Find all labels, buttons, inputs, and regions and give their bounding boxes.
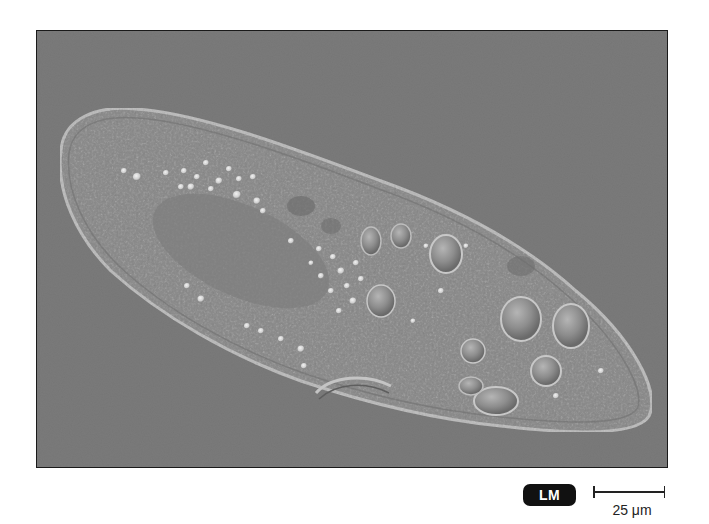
scale-bar-right-tick [664, 486, 666, 498]
scale-bar-line [593, 491, 665, 493]
micrograph-image [36, 30, 668, 468]
scale-bar [593, 486, 665, 498]
scale-label: 25 μm [604, 501, 660, 519]
paramecium-illustration [37, 31, 667, 467]
lm-badge: LM [523, 484, 576, 506]
